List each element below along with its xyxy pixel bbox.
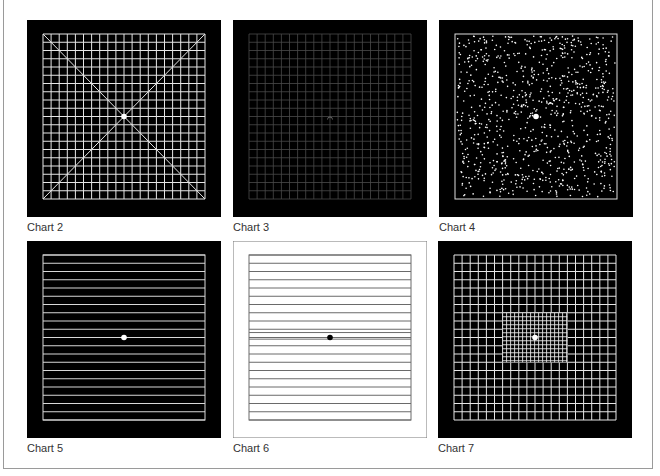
chart-7-panel: Chart 7	[438, 241, 632, 438]
chart-6-label: Chart 6	[233, 442, 269, 454]
chart-3-graphic	[233, 20, 427, 217]
chart-7-label: Chart 7	[438, 442, 474, 454]
chart-5-label: Chart 5	[27, 442, 63, 454]
chart-4-label: Chart 4	[439, 221, 475, 233]
fixation-dot	[121, 335, 127, 341]
chart-3-label: Chart 3	[233, 221, 269, 233]
fixation-dot	[533, 114, 539, 120]
chart-5-graphic	[27, 241, 221, 438]
fixation-dot	[121, 114, 127, 120]
chart-2-graphic	[27, 20, 221, 217]
chart-2-label: Chart 2	[27, 221, 63, 233]
chart-6-graphic	[233, 241, 427, 438]
fixation-dot	[532, 335, 538, 341]
chart-5-panel: Chart 5	[27, 241, 221, 438]
fixation-dot	[327, 335, 333, 341]
chart-6-panel: Chart 6	[233, 241, 427, 438]
chart-3-panel: Chart 3	[233, 20, 427, 217]
chart-7-graphic	[438, 241, 632, 438]
chart-2-panel: Chart 2	[27, 20, 221, 217]
chart-4-graphic	[439, 20, 633, 217]
chart-4-panel: Chart 4	[439, 20, 633, 217]
